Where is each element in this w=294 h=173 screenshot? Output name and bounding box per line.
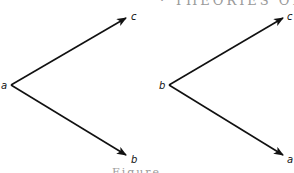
right-upper-target-label: c <box>287 11 293 22</box>
edge-a-to-c <box>11 18 126 85</box>
left-upper-target-label: c <box>131 11 137 22</box>
right-vertex-label: b <box>159 80 165 91</box>
edge-b-to-a <box>169 85 283 155</box>
left-lower-target-label: b <box>131 154 137 165</box>
directed-graph-figure: a c b b c a <box>0 0 294 173</box>
right-diagram: b c a <box>159 11 293 165</box>
edge-a-to-b <box>11 85 126 155</box>
left-vertex-label: a <box>1 80 7 91</box>
cropped-figure-caption: Figure <box>112 166 161 173</box>
edge-b-to-c <box>169 18 283 85</box>
left-diagram: a c b <box>1 11 137 165</box>
right-lower-target-label: a <box>287 154 293 165</box>
